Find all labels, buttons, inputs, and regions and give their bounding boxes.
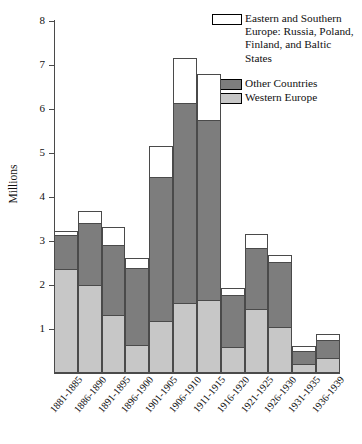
bar-segment-dark	[268, 262, 292, 328]
bar-segment-dark	[149, 177, 173, 322]
y-axis-tick-label: 4	[25, 190, 45, 202]
bar-column	[78, 21, 102, 373]
bar-segment-light	[125, 345, 149, 373]
bar-segment-dark	[316, 340, 340, 360]
y-axis-tick-label: 3	[25, 234, 45, 246]
bar-segment-dark	[245, 248, 269, 310]
bar-column	[149, 21, 173, 373]
bar-segment-dark	[221, 295, 245, 348]
bar-column	[292, 21, 316, 373]
bar-segment-dark	[54, 235, 78, 270]
bar-segment-white	[149, 146, 173, 178]
bar-segment-dark	[197, 120, 221, 301]
bar-column	[221, 21, 245, 373]
y-axis-tick-label: 6	[25, 102, 45, 114]
immigration-stacked-bar-chart: Eastern and Southern Europe: Russia, Pol…	[0, 0, 362, 444]
bar-segment-white	[245, 234, 269, 249]
y-axis-tick-label: 2	[25, 278, 45, 290]
bar-segment-dark	[125, 268, 149, 346]
y-axis-tick-label: 8	[25, 14, 45, 26]
bar-segment-light	[102, 315, 126, 373]
y-axis-tick-label: 1	[25, 322, 45, 334]
bar-segment-light	[149, 321, 173, 373]
bar-segment-light	[316, 358, 340, 373]
bar-series-group	[54, 21, 340, 373]
bar-segment-light	[173, 303, 197, 373]
bar-segment-dark	[102, 245, 126, 316]
bar-column	[316, 21, 340, 373]
bar-column	[197, 21, 221, 373]
bar-segment-light	[221, 347, 245, 373]
bar-segment-light	[245, 309, 269, 373]
bar-segment-light	[197, 300, 221, 373]
bar-column	[245, 21, 269, 373]
y-axis-ticks: 12345678	[0, 0, 54, 444]
y-axis-tick-label: 5	[25, 146, 45, 158]
bar-column	[54, 21, 78, 373]
bar-segment-light	[292, 364, 316, 373]
bar-segment-white	[102, 227, 126, 246]
bar-segment-light	[78, 285, 102, 373]
bar-segment-white	[197, 74, 221, 122]
bar-segment-light	[54, 269, 78, 373]
y-axis-tick-label: 7	[25, 58, 45, 70]
bar-column	[173, 21, 197, 373]
bar-column	[102, 21, 126, 373]
x-axis-labels: 1881-18851886-18901891-18951896-19001901…	[54, 374, 340, 444]
bar-column	[125, 21, 149, 373]
bar-segment-dark	[292, 351, 316, 365]
bar-segment-dark	[173, 103, 197, 304]
bar-segment-white	[173, 58, 197, 104]
bar-segment-light	[268, 327, 292, 373]
bar-segment-dark	[78, 223, 102, 286]
bar-column	[268, 21, 292, 373]
